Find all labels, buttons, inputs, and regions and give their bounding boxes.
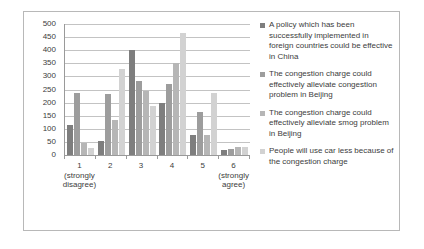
bar[interactable] bbox=[180, 33, 186, 155]
y-tick-label: 100 bbox=[43, 125, 56, 133]
bar-group bbox=[127, 24, 158, 155]
bar-group bbox=[219, 24, 250, 155]
y-tick-label: 50 bbox=[47, 138, 56, 146]
chart-container: 500450400350300250200150100500 1(strongl… bbox=[23, 11, 400, 231]
bars-layer bbox=[65, 24, 250, 155]
bar[interactable] bbox=[190, 135, 196, 155]
x-tick-label: 6(stronglyagree) bbox=[218, 161, 249, 190]
bar-group bbox=[96, 24, 127, 155]
x-tick bbox=[249, 155, 250, 159]
bar[interactable] bbox=[204, 135, 210, 155]
x-tick-label: 2 bbox=[108, 161, 112, 171]
legend-swatch-icon bbox=[260, 111, 265, 116]
x-tick-label: 3 bbox=[139, 161, 143, 171]
y-tick-label: 0 bbox=[52, 151, 56, 159]
x-tick bbox=[157, 155, 158, 159]
bar[interactable] bbox=[221, 150, 227, 155]
bar[interactable] bbox=[143, 91, 149, 155]
bar-group bbox=[158, 24, 189, 155]
y-axis: 500450400350300250200150100500 bbox=[26, 24, 60, 155]
bar[interactable] bbox=[235, 147, 241, 155]
bar[interactable] bbox=[228, 149, 234, 155]
legend-swatch-icon bbox=[260, 149, 265, 154]
y-tick-label: 450 bbox=[43, 33, 56, 41]
bar[interactable] bbox=[105, 94, 111, 155]
x-tick-label: 1(stronglydisagree) bbox=[63, 161, 96, 190]
chart-legend: A policy which has been successfully imp… bbox=[260, 20, 394, 174]
bar[interactable] bbox=[136, 81, 142, 155]
bar[interactable] bbox=[173, 63, 179, 155]
legend-item[interactable]: People will use car less because of the … bbox=[260, 146, 394, 167]
bar[interactable] bbox=[67, 125, 73, 155]
bar[interactable] bbox=[74, 93, 80, 155]
x-tick bbox=[218, 155, 219, 159]
plot-area: 500450400350300250200150100500 1(strongl… bbox=[64, 24, 250, 155]
bar[interactable] bbox=[81, 143, 87, 155]
x-tick-sublabel: disagree) bbox=[63, 180, 96, 190]
x-tick bbox=[187, 155, 188, 159]
x-tick-sublabel: (strongly bbox=[218, 171, 249, 181]
legend-label: The congestion charge could effectively … bbox=[269, 69, 394, 101]
bar[interactable] bbox=[112, 120, 118, 155]
bar[interactable] bbox=[119, 69, 125, 155]
bar[interactable] bbox=[197, 112, 203, 155]
y-tick-label: 500 bbox=[43, 20, 56, 28]
legend-item[interactable]: The congestion charge could effectively … bbox=[260, 108, 394, 140]
bar[interactable] bbox=[88, 148, 94, 155]
y-tick-label: 150 bbox=[43, 112, 56, 120]
bar[interactable] bbox=[166, 84, 172, 155]
x-tick bbox=[95, 155, 96, 159]
x-tick-label: 5 bbox=[201, 161, 205, 171]
bar[interactable] bbox=[98, 141, 104, 155]
legend-swatch-icon bbox=[260, 72, 265, 77]
legend-swatch-icon bbox=[260, 23, 265, 28]
bar[interactable] bbox=[211, 93, 217, 155]
legend-label: A policy which has been successfully imp… bbox=[269, 20, 394, 62]
bar[interactable] bbox=[129, 50, 135, 155]
bar[interactable] bbox=[242, 147, 248, 155]
y-tick-label: 250 bbox=[43, 86, 56, 94]
x-tick-sublabel: agree) bbox=[218, 180, 249, 190]
legend-label: People will use car less because of the … bbox=[269, 146, 394, 167]
legend-item[interactable]: The congestion charge could effectively … bbox=[260, 69, 394, 101]
x-tick bbox=[126, 155, 127, 159]
x-tick-sublabel: (strongly bbox=[63, 171, 96, 181]
legend-label: The congestion charge could effectively … bbox=[269, 108, 394, 140]
x-tick-label: 4 bbox=[170, 161, 174, 171]
bar[interactable] bbox=[150, 106, 156, 155]
y-tick-label: 400 bbox=[43, 46, 56, 54]
bar[interactable] bbox=[159, 103, 165, 155]
legend-item[interactable]: A policy which has been successfully imp… bbox=[260, 20, 394, 62]
y-tick-label: 350 bbox=[43, 59, 56, 67]
bar-group bbox=[65, 24, 96, 155]
x-tick bbox=[64, 155, 65, 159]
bar-group bbox=[188, 24, 219, 155]
y-tick-label: 200 bbox=[43, 99, 56, 107]
y-tick-label: 300 bbox=[43, 72, 56, 80]
